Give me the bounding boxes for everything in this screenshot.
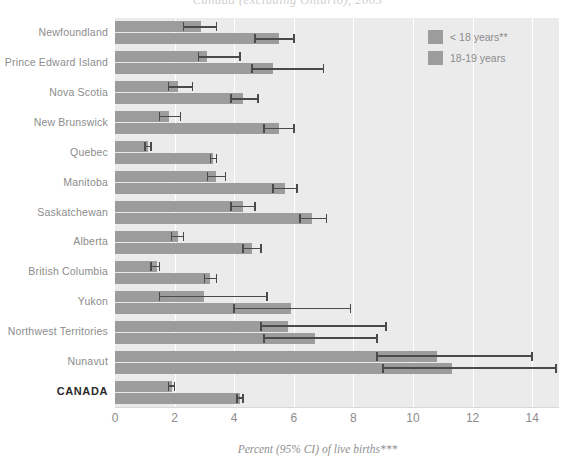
category-label-newfoundland: Newfoundland <box>0 26 108 38</box>
bar <box>115 213 312 224</box>
error-bar-cap-upper <box>293 34 295 43</box>
error-bar-cap-lower <box>260 322 262 331</box>
error-bar-cap-upper <box>242 394 244 403</box>
x-tick-label-4: 4 <box>231 411 238 425</box>
error-bar-cap-lower <box>299 214 301 223</box>
legend-swatch-18-19 <box>428 51 443 65</box>
category-label-nunavut: Nunavut <box>0 355 108 367</box>
bar <box>115 183 285 194</box>
error-bar-cap-upper <box>150 142 152 151</box>
error-bar-cap-lower <box>204 274 206 283</box>
error-bar-line <box>255 38 294 40</box>
error-bar-cap-upper <box>239 52 241 61</box>
legend-label-18-19: 18-19 years <box>450 52 505 64</box>
error-bar-cap-upper <box>216 154 218 163</box>
error-bar-cap-upper <box>296 184 298 193</box>
error-bar-cap-upper <box>326 214 328 223</box>
category-axis-labels: NewfoundlandPrince Edward IslandNova Sco… <box>0 18 108 407</box>
error-bar-cap-upper <box>350 304 352 313</box>
category-label-manitoba: Manitoba <box>0 176 108 188</box>
error-bar-cap-upper <box>180 112 182 121</box>
bar <box>115 171 216 182</box>
error-bar-cap-lower <box>272 184 274 193</box>
error-bar-line <box>198 56 240 58</box>
error-bar-cap-lower <box>171 232 173 241</box>
bar <box>115 153 213 164</box>
error-bar-cap-upper <box>376 334 378 343</box>
error-bar-cap-lower <box>242 244 244 253</box>
error-bar-cap-upper <box>192 82 194 91</box>
error-bar-line <box>160 116 181 118</box>
error-bar-line <box>261 325 386 327</box>
chart-title: Canada (excluding Ontario), 2005 <box>0 0 575 8</box>
error-bar-line <box>184 26 217 28</box>
gridline-12 <box>473 18 474 407</box>
error-bar-cap-upper <box>293 124 295 133</box>
error-bar-cap-upper <box>323 64 325 73</box>
legend-swatch-under-18 <box>428 30 443 44</box>
error-bar-cap-upper <box>174 382 176 391</box>
error-bar-cap-upper <box>555 364 557 373</box>
error-bar-cap-upper <box>225 172 227 181</box>
error-bar-cap-lower <box>382 364 384 373</box>
error-bar-line <box>207 176 225 178</box>
error-bar-cap-lower <box>168 382 170 391</box>
x-tick-label-0: 0 <box>112 411 119 425</box>
error-bar-cap-upper <box>216 22 218 31</box>
x-tick-label-12: 12 <box>466 411 479 425</box>
legend-item-under-18: < 18 years** <box>428 30 558 44</box>
error-bar-cap-lower <box>236 394 238 403</box>
error-bar-cap-upper <box>257 94 259 103</box>
error-bar-cap-lower <box>168 82 170 91</box>
x-tick-label-14: 14 <box>525 411 538 425</box>
gridline-10 <box>413 18 414 407</box>
error-bar-cap-lower <box>263 334 265 343</box>
category-label-prince-edward-island: Prince Edward Island <box>0 56 108 68</box>
x-axis-tick-labels: 02468101214 <box>0 411 575 431</box>
bar <box>115 93 243 104</box>
error-bar-line <box>252 68 324 70</box>
error-bar-cap-upper <box>385 322 387 331</box>
error-bar-cap-lower <box>376 352 378 361</box>
x-axis-title: Percent (95% CI) of live births*** <box>0 443 575 455</box>
legend-label-under-18: < 18 years** <box>450 31 508 43</box>
bar <box>115 243 252 254</box>
error-bar-line <box>172 236 184 238</box>
bar <box>115 63 273 74</box>
x-tick-label-10: 10 <box>406 411 419 425</box>
error-bar-cap-upper <box>260 244 262 253</box>
gridline-8 <box>353 18 354 407</box>
error-bar-cap-upper <box>531 352 533 361</box>
plot-area <box>115 18 559 407</box>
error-bar-line <box>231 206 255 208</box>
error-bar-line <box>300 218 327 220</box>
error-bar-cap-upper <box>183 232 185 241</box>
error-bar-cap-upper <box>254 202 256 211</box>
bar <box>115 393 240 404</box>
x-tick-label-8: 8 <box>350 411 357 425</box>
category-label-canada: CANADA <box>0 385 108 397</box>
category-label-saskatchewan: Saskatchewan <box>0 206 108 218</box>
legend-item-18-19: 18-19 years <box>428 51 558 65</box>
error-bar-cap-lower <box>230 94 232 103</box>
legend: < 18 years** 18-19 years <box>428 30 558 72</box>
x-axis-line <box>115 407 559 408</box>
bar <box>115 201 243 212</box>
error-bar-line <box>383 367 556 369</box>
error-bar-line <box>243 248 261 250</box>
x-tick-label-6: 6 <box>290 411 297 425</box>
error-bar-cap-lower <box>183 22 185 31</box>
error-bar-cap-lower <box>233 304 235 313</box>
error-bar-line <box>264 337 377 339</box>
bar <box>115 141 148 152</box>
category-label-nova-scotia: Nova Scotia <box>0 86 108 98</box>
bar <box>115 123 279 134</box>
category-label-quebec: Quebec <box>0 146 108 158</box>
error-bar-line <box>231 98 258 100</box>
error-bar-line <box>234 308 350 310</box>
error-bar-cap-lower <box>263 124 265 133</box>
category-label-new-brunswick: New Brunswick <box>0 116 108 128</box>
error-bar-cap-upper <box>159 262 161 271</box>
bar <box>115 273 210 284</box>
error-bar-cap-lower <box>210 154 212 163</box>
